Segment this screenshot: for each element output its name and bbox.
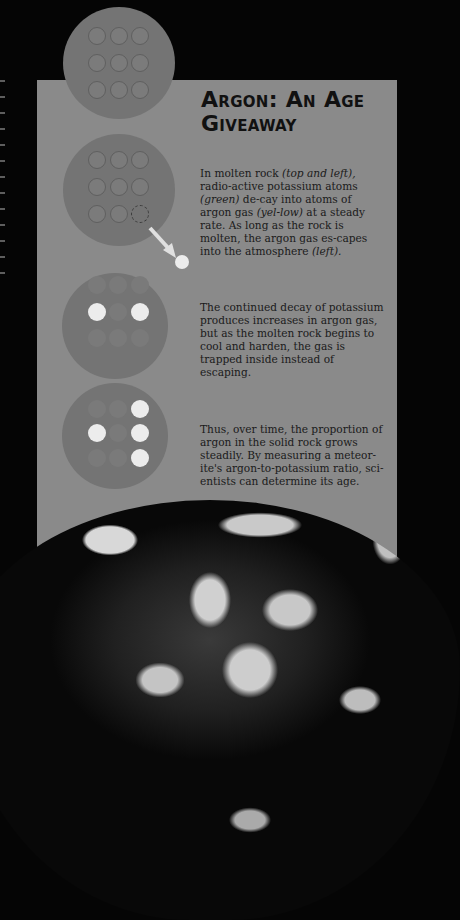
- diagram-argon-accumulated: [62, 383, 168, 489]
- potassium-atom: [109, 329, 127, 347]
- potassium-atom: [109, 303, 127, 321]
- potassium-atom: [88, 449, 106, 467]
- paragraph-cooling: The continued decay of potassium produce…: [200, 301, 386, 379]
- potassium-atom: [131, 329, 149, 347]
- potassium-atom: [131, 276, 149, 294]
- diagram-argon-trapped: [62, 273, 168, 379]
- argon-atom: [88, 424, 106, 442]
- potassium-atom: [109, 400, 127, 418]
- meteorite-photo: [0, 500, 460, 920]
- argon-atom: [131, 424, 149, 442]
- argon-atom: [131, 449, 149, 467]
- potassium-atom: [88, 400, 106, 418]
- potassium-atom: [88, 276, 106, 294]
- argon-atom: [131, 400, 149, 418]
- potassium-atom: [109, 276, 127, 294]
- potassium-atom: [109, 449, 127, 467]
- page-title: Argon: An Age Giveaway: [201, 88, 391, 136]
- argon-atom: [88, 303, 106, 321]
- potassium-atom: [109, 424, 127, 442]
- argon-atom: [131, 303, 149, 321]
- potassium-atom: [88, 329, 106, 347]
- paragraph-molten: In molten rock (top and left), radio-act…: [200, 167, 386, 258]
- paragraph-age: Thus, over time, the proportion of argon…: [200, 423, 386, 488]
